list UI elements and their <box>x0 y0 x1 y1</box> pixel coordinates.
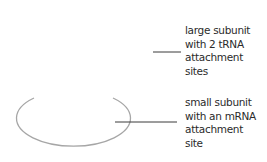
large-subunit-label-line-4: sites <box>185 65 250 79</box>
small-subunit-label-line-2: with an mRNA <box>185 110 256 124</box>
large-subunit-label-line-3: attachment <box>185 51 250 65</box>
small-subunit-outline <box>17 98 131 146</box>
small-subunit-label: small subunit with an mRNA attachment si… <box>185 96 256 150</box>
small-subunit-label-line-3: attachment <box>185 123 256 137</box>
large-subunit-label-line-1: large subunit <box>185 24 250 38</box>
large-subunit-label: large subunit with 2 tRNA attachment sit… <box>185 24 250 78</box>
small-subunit-label-line-1: small subunit <box>185 96 256 110</box>
small-subunit-label-line-4: site <box>185 137 256 151</box>
large-subunit-label-line-2: with 2 tRNA <box>185 38 250 52</box>
